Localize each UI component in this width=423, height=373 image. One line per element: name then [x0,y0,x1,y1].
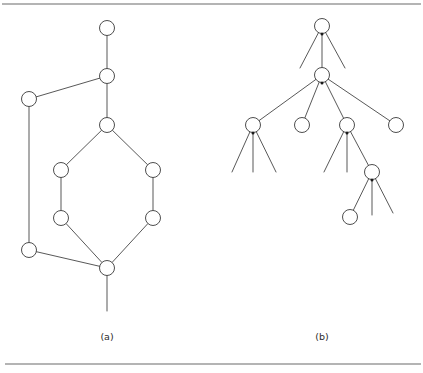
graph-node-a7[interactable] [54,211,69,226]
figure-container: (a)(b) [0,0,423,373]
graph-node-a1[interactable] [100,21,115,36]
graph-node-b3[interactable] [246,118,261,133]
graph-node-a8[interactable] [146,211,161,226]
graph-node-b7[interactable] [365,165,380,180]
figure-svg: (a)(b) [0,0,423,373]
edge-a7-a10 [66,224,102,263]
graph-node-a5[interactable] [54,163,69,178]
graph-node-b1[interactable] [315,19,330,34]
diagram-panels [22,19,404,312]
caption-a: (a) [100,331,113,342]
graph-node-a9[interactable] [22,243,37,258]
stub-edge-b3-4 [256,132,276,172]
edge-a4-a6 [112,130,147,165]
stub-edge-b7-8 [375,179,393,213]
stub-edge-b1-1 [326,33,345,68]
caption-b: (b) [315,331,328,342]
panel-a-edges [29,36,153,312]
edge-a8-a10 [112,224,148,263]
edge-b2-b5 [325,82,343,119]
graph-node-b6[interactable] [389,118,404,133]
graph-node-a3[interactable] [22,92,37,107]
edge-a4-a5 [66,130,101,165]
edge-b5-b7 [351,132,369,166]
graph-node-b5[interactable] [340,118,355,133]
stub-edge-b1-0 [300,33,319,68]
edge-b7-b8 [353,179,368,211]
junction-dot-3 [346,132,349,135]
panel-a-nodes [22,21,161,276]
horizontal-rules [2,4,421,364]
panel-a [22,21,161,312]
graph-node-a4[interactable] [100,118,115,133]
graph-node-a2[interactable] [100,69,115,84]
junction-dot-2 [252,132,255,135]
panel-b [232,19,404,225]
edge-a9-a10 [36,252,99,267]
graph-node-b8[interactable] [343,210,358,225]
graph-node-b4[interactable] [295,118,310,133]
graph-node-b2[interactable] [315,68,330,83]
stub-edge-b3-2 [232,132,250,172]
edge-b2-b3 [259,79,316,120]
graph-node-a6[interactable] [146,163,161,178]
stub-edge-b5-5 [324,132,344,172]
graph-node-a10[interactable] [100,261,115,276]
junction-dot-4 [371,179,374,182]
junction-dot-0 [321,33,324,36]
panel-captions: (a)(b) [100,331,328,342]
panel-b-nodes [246,19,404,225]
edge-b2-b6 [328,79,390,121]
edge-a2-a3 [36,78,100,97]
edge-b2-b4 [305,82,319,118]
junction-dot-1 [321,82,324,85]
